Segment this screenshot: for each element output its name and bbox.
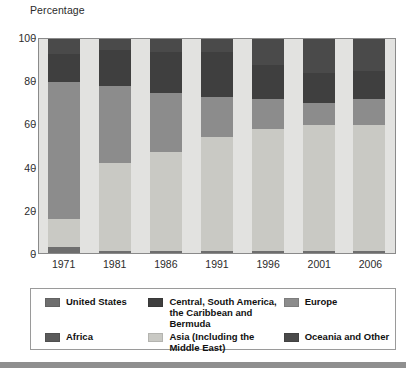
stacked-bar-chart: Percentage 020406080100 1971198119861991… <box>0 0 406 373</box>
x-axis-tick-label: 2001 <box>303 258 335 270</box>
bar-1971 <box>48 39 80 253</box>
bar-segment-oceania_other <box>353 39 385 71</box>
bar-segment-oceania_other <box>303 39 335 73</box>
y-axis-tick-mark <box>32 124 36 125</box>
bar-segment-central_south_america <box>353 71 385 99</box>
legend-swatch-asia <box>148 333 163 342</box>
x-axis: 1971198119861991199620012006 <box>38 258 396 278</box>
legend-swatch-united_states <box>45 298 60 307</box>
bar-2001 <box>303 39 335 253</box>
plot-area <box>38 38 396 254</box>
bar-segment-europe <box>150 93 182 153</box>
bar-segment-oceania_other <box>201 39 233 52</box>
bar-segment-central_south_america <box>150 52 182 93</box>
bar-segment-central_south_america <box>48 54 80 82</box>
legend-item-oceania_other[interactable]: Oceania and Other <box>284 331 395 353</box>
x-axis-tick-label: 1971 <box>48 258 80 270</box>
bar-2006 <box>353 39 385 253</box>
legend-label: Asia (Including the Middle East) <box>169 331 283 353</box>
bar-1996 <box>252 39 284 253</box>
bar-segment-asia <box>303 125 335 251</box>
legend-label: Africa <box>66 331 93 342</box>
bar-segment-asia <box>150 152 182 250</box>
bar-segment-united_states <box>353 251 385 253</box>
footer-rule <box>0 362 406 368</box>
bar-segment-central_south_america <box>303 73 335 103</box>
bar-segment-oceania_other <box>99 39 131 50</box>
legend-label: Central, South America, the Caribbean an… <box>169 296 283 329</box>
bar-segment-asia <box>353 125 385 251</box>
bar-segment-asia <box>48 219 80 247</box>
bar-segment-europe <box>201 97 233 138</box>
bar-1991 <box>201 39 233 253</box>
legend-swatch-europe <box>284 298 299 307</box>
y-axis-tick-mark <box>32 211 36 212</box>
bar-segment-asia <box>201 137 233 250</box>
legend-item-europe[interactable]: Europe <box>284 296 395 329</box>
bar-segment-asia <box>99 163 131 251</box>
bar-segment-asia <box>252 129 284 251</box>
legend-row: AfricaAsia (Including the Middle East)Oc… <box>31 331 395 353</box>
bar-segment-united_states <box>303 251 335 253</box>
bar-segment-united_states <box>99 251 131 253</box>
legend-label: United States <box>66 296 127 307</box>
x-axis-tick-label: 2006 <box>354 258 386 270</box>
y-axis-tick-mark <box>32 254 36 255</box>
bar-segment-europe <box>252 99 284 129</box>
legend-item-africa[interactable]: Africa <box>31 331 148 353</box>
bar-segment-united_states <box>48 247 80 253</box>
legend-item-central_south_america[interactable]: Central, South America, the Caribbean an… <box>148 296 283 329</box>
bar-segment-central_south_america <box>201 52 233 97</box>
bar-segment-europe <box>99 86 131 163</box>
legend-swatch-africa <box>45 333 60 342</box>
legend-item-united_states[interactable]: United States <box>31 296 148 329</box>
bar-segment-oceania_other <box>252 39 284 65</box>
y-axis-title: Percentage <box>30 4 85 16</box>
bar-segment-central_south_america <box>99 50 131 86</box>
bar-segment-oceania_other <box>48 39 80 54</box>
legend-item-asia[interactable]: Asia (Including the Middle East) <box>148 331 283 353</box>
bar-segment-europe <box>353 99 385 125</box>
y-axis-tick-mark <box>32 81 36 82</box>
bar-segment-central_south_america <box>252 65 284 99</box>
bar-1981 <box>99 39 131 253</box>
bar-series-container <box>39 39 395 253</box>
x-axis-tick-label: 1986 <box>150 258 182 270</box>
bar-segment-united_states <box>252 251 284 253</box>
bar-segment-united_states <box>201 251 233 253</box>
y-axis-tick-mark <box>32 38 36 39</box>
y-axis: 020406080100 <box>0 38 36 254</box>
bar-1986 <box>150 39 182 253</box>
legend-label: Europe <box>305 296 338 307</box>
bar-segment-united_states <box>150 251 182 253</box>
x-axis-tick-label: 1981 <box>99 258 131 270</box>
bar-segment-oceania_other <box>150 39 182 52</box>
chart-legend: United StatesCentral, South America, the… <box>30 288 396 350</box>
legend-label: Oceania and Other <box>305 331 389 342</box>
y-axis-tick-mark <box>32 168 36 169</box>
bar-segment-europe <box>303 103 335 124</box>
legend-swatch-central_south_america <box>148 298 163 307</box>
x-axis-tick-label: 1996 <box>252 258 284 270</box>
legend-swatch-oceania_other <box>284 333 299 342</box>
legend-row: United StatesCentral, South America, the… <box>31 296 395 329</box>
bar-segment-europe <box>48 82 80 219</box>
x-axis-tick-label: 1991 <box>201 258 233 270</box>
